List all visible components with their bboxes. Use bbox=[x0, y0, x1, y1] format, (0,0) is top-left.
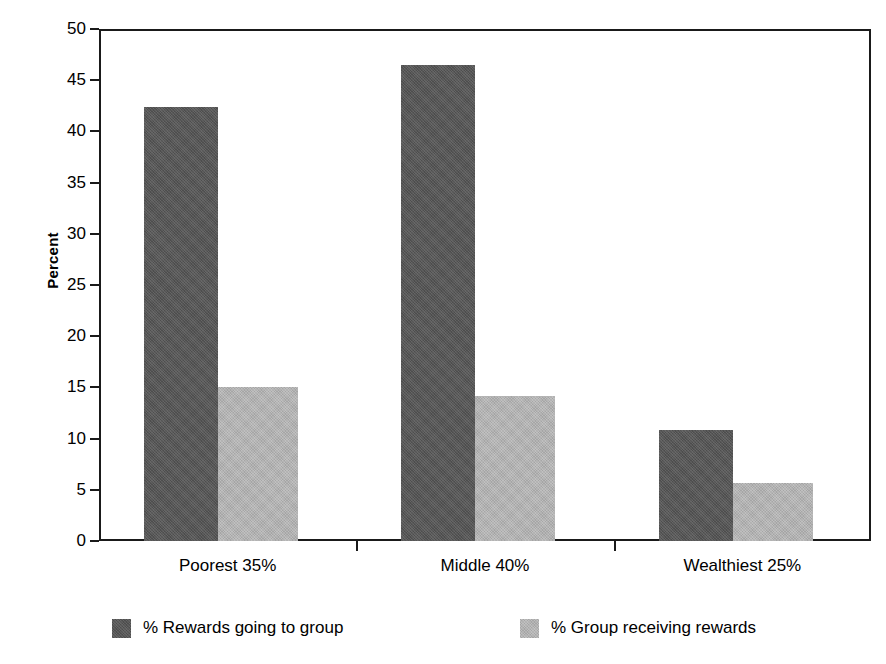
y-tick-mark bbox=[90, 540, 99, 542]
y-tick-label: 15 bbox=[42, 378, 86, 395]
x-tick-mark bbox=[614, 541, 616, 551]
y-tick-mark bbox=[90, 130, 99, 132]
bar bbox=[401, 65, 475, 541]
y-tick-mark bbox=[90, 28, 99, 30]
legend-item: % Group receiving rewards bbox=[520, 615, 756, 641]
legend-item: % Rewards going to group bbox=[112, 615, 343, 641]
bar bbox=[733, 483, 813, 541]
y-tick-mark bbox=[90, 284, 99, 286]
bar bbox=[475, 396, 555, 541]
y-tick-mark bbox=[90, 79, 99, 81]
legend-label: % Rewards going to group bbox=[143, 618, 343, 638]
bar-chart: Percent 50454035302520151050 Poorest 35%… bbox=[0, 0, 886, 664]
y-tick-label: 40 bbox=[42, 122, 86, 139]
y-tick-mark bbox=[90, 489, 99, 491]
legend-swatch bbox=[112, 619, 131, 638]
y-axis-title: Percent bbox=[44, 201, 61, 321]
x-axis-label: Poorest 35% bbox=[118, 556, 338, 576]
bars-layer bbox=[99, 29, 871, 541]
legend-swatch bbox=[520, 619, 539, 638]
x-tick-mark bbox=[356, 541, 358, 551]
bar bbox=[218, 387, 298, 541]
y-tick-label: 50 bbox=[42, 20, 86, 37]
y-tick-label: 25 bbox=[42, 276, 86, 293]
x-axis-label: Middle 40% bbox=[375, 556, 595, 576]
y-tick-label: 45 bbox=[42, 71, 86, 88]
y-tick-label: 10 bbox=[42, 430, 86, 447]
y-tick-mark bbox=[90, 335, 99, 337]
bar bbox=[144, 107, 218, 541]
bar bbox=[659, 430, 733, 541]
y-tick-mark bbox=[90, 386, 99, 388]
y-tick-label: 5 bbox=[42, 481, 86, 498]
y-tick-mark bbox=[90, 182, 99, 184]
y-tick-label: 0 bbox=[42, 532, 86, 549]
y-tick-mark bbox=[90, 438, 99, 440]
y-tick-label: 20 bbox=[42, 327, 86, 344]
legend-label: % Group receiving rewards bbox=[551, 618, 756, 638]
chart-legend: % Rewards going to group% Group receivin… bbox=[0, 615, 886, 645]
y-tick-label: 30 bbox=[42, 225, 86, 242]
x-axis-label: Wealthiest 25% bbox=[632, 556, 852, 576]
y-tick-label: 35 bbox=[42, 174, 86, 191]
y-tick-mark bbox=[90, 233, 99, 235]
